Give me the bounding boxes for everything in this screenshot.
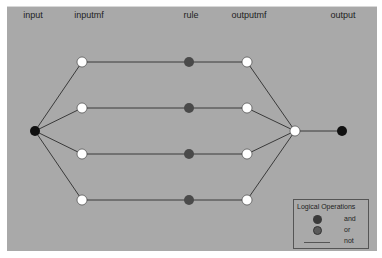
aggregate-node[interactable] [290,126,300,136]
or-symbol-icon [313,226,322,235]
rule-nodes [184,57,194,205]
not-line-icon [304,242,330,243]
output-node[interactable] [337,126,347,136]
rule-node[interactable] [184,57,194,67]
legend-label-not: not [344,237,354,244]
outputmf-nodes [242,57,252,205]
legend-item-and: and [294,215,368,225]
inputmf-node[interactable] [77,149,87,159]
legend-label-or: or [344,226,350,233]
outputmf-node[interactable] [242,103,252,113]
rule-node[interactable] [184,103,194,113]
legend-item-or: or [294,226,368,236]
input-node[interactable] [30,126,40,136]
rule-node[interactable] [184,149,194,159]
legend-item-not: not [294,237,368,247]
legend-box: Logical Operations and or not [293,199,369,249]
rule-node[interactable] [184,195,194,205]
inputmf-node[interactable] [77,57,87,67]
legend-title: Logical Operations [297,203,355,210]
inputmf-nodes [77,57,87,205]
and-symbol-icon [313,215,322,224]
outputmf-node[interactable] [242,57,252,67]
legend-label-and: and [344,215,356,222]
inputmf-node[interactable] [77,103,87,113]
inputmf-node[interactable] [77,195,87,205]
outputmf-node[interactable] [242,149,252,159]
outputmf-node[interactable] [242,195,252,205]
